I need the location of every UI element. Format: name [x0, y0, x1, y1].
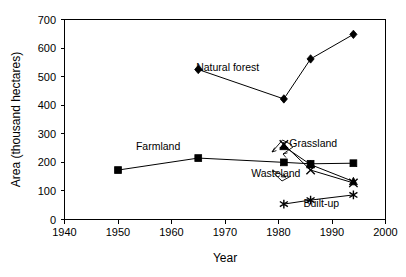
series-label-farmland: Farmland: [136, 140, 181, 152]
y-tick-0: 0: [50, 214, 56, 226]
y-tick-700: 700: [38, 14, 56, 26]
x-axis-title: Year: [213, 251, 237, 265]
series-label-built-up: Built-up: [303, 197, 339, 209]
series-label-grassland: Grassland: [289, 137, 337, 149]
y-tick-400: 400: [38, 99, 56, 111]
y-tick-600: 600: [38, 42, 56, 54]
marker-diamond: [350, 30, 357, 38]
y-axis-title: Area (thousand hectares): [9, 52, 23, 187]
line-chart: 700 600 500 400 300 200 100 0 1940 1950 …: [0, 0, 406, 277]
marker-square: [115, 167, 122, 174]
y-tick-100: 100: [38, 185, 56, 197]
x-tick-1940: 1940: [52, 226, 76, 238]
y-tick-200: 200: [38, 156, 56, 168]
x-tick-1960: 1960: [159, 226, 183, 238]
series-farmland: [115, 155, 357, 174]
series-layer: [115, 30, 358, 208]
y-tick-300: 300: [38, 128, 56, 140]
marker-square: [350, 160, 357, 167]
marker-square: [195, 155, 202, 162]
x-tick-1980: 1980: [266, 226, 290, 238]
x-axis-ticks: [65, 220, 386, 224]
y-axis-ticks: [61, 20, 65, 220]
series-label-wasteland: Wasteland: [251, 167, 300, 179]
y-axis-tick-labels: 700 600 500 400 300 200 100 0: [38, 14, 56, 226]
x-tick-1950: 1950: [106, 226, 130, 238]
chart-container: 700 600 500 400 300 200 100 0 1940 1950 …: [0, 0, 406, 277]
x-tick-1970: 1970: [213, 226, 237, 238]
plot-frame: [65, 20, 386, 220]
series-label-natural-forest: Natural forest: [196, 61, 259, 73]
x-tick-2000: 2000: [373, 226, 397, 238]
marker-triangle: [280, 142, 288, 150]
marker-square: [280, 159, 287, 166]
x-axis-tick-labels: 1940 1950 1960 1970 1980 1990 2000: [52, 226, 397, 238]
series-line: [118, 158, 353, 170]
y-tick-500: 500: [38, 71, 56, 83]
x-tick-1990: 1990: [320, 226, 344, 238]
